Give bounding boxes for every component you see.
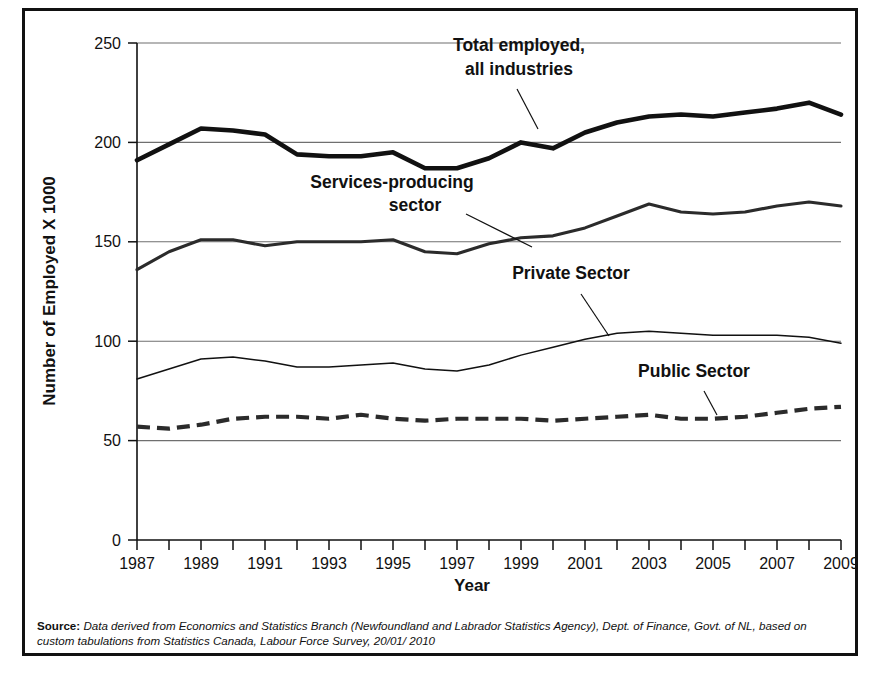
annotation-public: Public Sector [638, 361, 750, 381]
leader-line-total [517, 89, 538, 129]
series-line-public-sector [137, 407, 841, 429]
y-tick-label-100: 100 [94, 333, 121, 350]
y-tick-label-50: 50 [103, 432, 121, 449]
y-tick-label-150: 150 [94, 233, 121, 250]
source-text: Data derived from Economics and Statisti… [37, 619, 807, 647]
series-line-total-employed-all-industries [137, 103, 841, 169]
x-tick-label-2009: 2009 [823, 555, 855, 572]
annotation-total-line1: Total employed, [453, 35, 585, 55]
annotation-services-line1: Services-producing [310, 172, 473, 192]
chart-area: 050100150200250 198719891991199319951997… [25, 11, 855, 611]
annotation-private: Private Sector [512, 263, 630, 283]
x-tick-label-1987: 1987 [119, 555, 155, 572]
line-chart-plot: 050100150200250 198719891991199319951997… [25, 11, 855, 611]
x-tick-label-1999: 1999 [503, 555, 539, 572]
x-tick-label-2007: 2007 [759, 555, 795, 572]
x-tick-label-1991: 1991 [247, 555, 283, 572]
leader-line-private [581, 294, 609, 336]
x-tick-label-1993: 1993 [311, 555, 347, 572]
x-tick-labels-group: 1987198919911993199519971999200120032005… [119, 555, 855, 572]
x-tick-label-1989: 1989 [183, 555, 219, 572]
annotations-group: Total employed, all industries Services-… [310, 35, 750, 415]
x-tick-marks-group [137, 540, 841, 550]
gridlines-group [128, 43, 841, 540]
figure-frame: 050100150200250 198719891991199319951997… [22, 8, 858, 656]
x-tick-label-2003: 2003 [631, 555, 667, 572]
source-label: Source: [37, 619, 80, 632]
x-axis-title: Year [454, 576, 490, 595]
annotation-services-line2: sector [389, 195, 442, 215]
x-tick-label-1995: 1995 [375, 555, 411, 572]
y-tick-label-0: 0 [112, 532, 121, 549]
y-tick-labels-group: 050100150200250 [94, 35, 121, 549]
annotation-total-line2: all industries [465, 59, 573, 79]
leader-line-public [704, 391, 717, 415]
y-axis-title: Number of Employed X 1000 [40, 176, 59, 406]
source-note: Source: Data derived from Economics and … [37, 619, 843, 648]
x-tick-label-1997: 1997 [439, 555, 475, 572]
series-line-services-producing-sector [137, 202, 841, 270]
y-tick-label-200: 200 [94, 134, 121, 151]
x-tick-label-2005: 2005 [695, 555, 731, 572]
x-tick-label-2001: 2001 [567, 555, 603, 572]
y-tick-label-250: 250 [94, 35, 121, 52]
